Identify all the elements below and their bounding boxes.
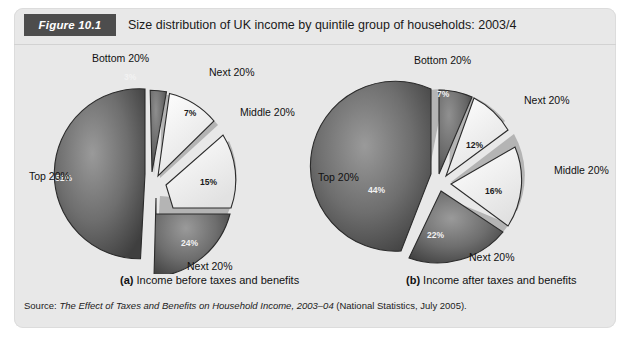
pie-chart-b: 44% 7% 12% 16% 22% Top 20% Bottom 20% Ne… [309, 46, 616, 274]
pie-b-callout-next-upper: Next 20% [524, 94, 570, 106]
pie-a-value-next-lower: 24% [181, 238, 198, 248]
pie-b-callout-top: Top 20% [318, 171, 359, 183]
pie-b-callout-middle: Middle 20% [554, 164, 609, 176]
figure-title: Size distribution of UK income by quinti… [128, 14, 516, 36]
pie-a-callout-top: Top 20% [29, 170, 70, 182]
figure-number-badge: Figure 10.1 [24, 14, 116, 36]
pie-a-callout-next-upper: Next 20% [209, 66, 255, 78]
pie-b-value-next-lower: 22% [427, 230, 444, 240]
charts-container: 51% 3% 7% 15% 24% Top 20% Bottom 20% Nex… [14, 46, 616, 274]
pie-b-value-middle: 16% [485, 186, 502, 196]
subcaption-b-marker: (b) [406, 274, 420, 286]
pie-a-value-middle: 15% [200, 177, 217, 187]
subcaption-a-text: Income before taxes and benefits [137, 274, 300, 286]
pie-a-callout-next-lower: Next 20% [187, 260, 233, 272]
source-citation-title: The Effect of Taxes and Benefits on Hous… [59, 300, 336, 311]
pie-chart-a: 51% 3% 7% 15% 24% Top 20% Bottom 20% Nex… [14, 46, 314, 274]
pie-a-value-bottom: 3% [124, 72, 136, 82]
pie-b-callout-next-lower: Next 20% [469, 251, 515, 263]
subcaption-b-text: Income after taxes and benefits [423, 274, 576, 286]
pie-b-callout-bottom: Bottom 20% [414, 54, 471, 66]
figure-header: Figure 10.1 Size distribution of UK inco… [14, 14, 616, 38]
pie-b-slice-top [310, 81, 431, 251]
figure-panel: Figure 10.1 Size distribution of UK inco… [14, 8, 616, 328]
pie-b-value-top: 44% [368, 185, 385, 195]
pie-b-value-next-upper: 12% [466, 140, 483, 150]
pie-b-svg [309, 46, 616, 274]
source-prefix: Source: [24, 300, 59, 311]
subcaption-a-marker: (a) [120, 274, 133, 286]
title-divider [14, 44, 616, 45]
pie-a-svg [14, 46, 314, 274]
source-line: Source: The Effect of Taxes and Benefits… [24, 300, 467, 311]
subcaption-b: (b) Income after taxes and benefits [406, 274, 577, 286]
pie-a-callout-bottom: Bottom 20% [92, 52, 149, 64]
source-citation-publisher: (National Statistics, July 2005). [336, 300, 466, 311]
pie-a-value-next-upper: 7% [184, 108, 196, 118]
pie-b-value-bottom: 7% [437, 89, 449, 99]
pie-a-callout-middle: Middle 20% [240, 106, 295, 118]
subcaption-a: (a) Income before taxes and benefits [120, 274, 299, 286]
